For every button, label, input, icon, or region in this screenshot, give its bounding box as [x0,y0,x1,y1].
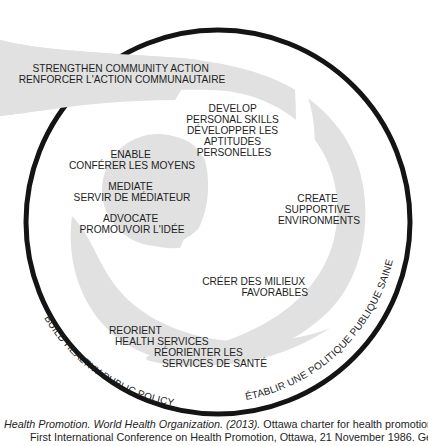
health-promotion-emblem: BUILD HEALTHY PUBLIC POLICY ÉTABLIR UNE … [0,0,428,446]
source-caption: Health Promotion. World Health Organizat… [0,418,428,444]
label-reorient-health-services: REORIENT HEALTH SERVICES [109,325,209,347]
caption-source-italic: Health Promotion. World Health Organizat… [4,418,260,430]
caption-source-rest: Ottawa charter for health promotion: [260,418,428,430]
label-strengthen-community-action: STRENGTHEN COMMUNITY ACTION RENFORCER L'… [19,63,226,85]
caption-line-2: First International Conference on Health… [0,431,428,444]
label-creer-des-milieux: CRÉER DES MILIEUX FAVORABLES [202,275,308,298]
label-develop-personal-skills: DEVELOP PERSONAL SKILLS DÉVELOPPER LES A… [186,103,281,158]
